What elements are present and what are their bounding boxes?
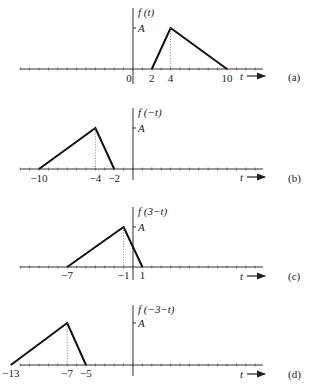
amplitude-label: A [137,122,145,134]
amplitude-label: A [137,317,145,329]
t-variable-label: t [240,368,244,380]
tick-label: −7 [61,367,73,379]
panel-tag: (a) [288,71,301,84]
panel-d: f (−3−t)A−13−7−5t(d) [2,303,301,381]
t-variable-label: t [240,171,244,183]
panel-a: f (t)A02410t(a) [20,6,301,84]
tick-label: −13 [2,367,20,379]
tick-label: −2 [108,172,120,184]
tick-label: −4 [90,172,102,184]
t-variable-label: t [240,70,244,82]
tick-label: −10 [30,172,48,184]
y-axis-label: f (t) [138,6,155,19]
tick-label: 2 [149,72,155,84]
panel-c: f (3−t)A−7−11t(c) [20,205,301,283]
panel-tag: (c) [288,270,301,283]
panel-tag: (d) [288,368,301,381]
t-variable-label: t [240,270,244,282]
tick-label: −1 [118,269,130,281]
panel-tag: (b) [288,172,301,185]
panel-b: f (−t)A−10−4−2t(b) [20,106,301,185]
y-axis-label: f (3−t) [138,205,167,218]
tick-label: 1 [140,269,146,281]
tick-label: 10 [222,72,234,84]
tick-label: −5 [80,367,92,379]
amplitude-label: A [137,221,145,233]
signal-trace [152,28,227,69]
tick-label: −7 [61,269,73,281]
tick-label: 4 [168,72,174,84]
signal-transform-figure: f (t)A02410t(a) f (−t)A−10−4−2t(b) f (3−… [0,0,318,390]
y-axis-label: f (−3−t) [138,303,175,316]
signal-trace [67,227,142,267]
y-axis-label: f (−t) [138,106,162,119]
amplitude-label: A [137,22,145,34]
signal-trace [11,323,86,365]
signal-trace [39,128,114,169]
tick-label: 0 [126,72,132,84]
